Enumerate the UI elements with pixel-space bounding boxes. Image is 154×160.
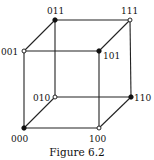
vertex-label-100: 100	[89, 134, 106, 144]
cube-diagram: 000100010110001101011111 Figure 6.2	[0, 0, 154, 160]
vertex-label-010: 010	[33, 93, 50, 103]
vertex-label-111: 111	[121, 6, 138, 16]
vertex-000	[22, 126, 26, 130]
cube-edges	[24, 20, 131, 128]
vertex-111	[128, 18, 132, 22]
vertex-label-001: 001	[1, 47, 18, 57]
vertex-label-011: 011	[47, 6, 64, 16]
edge-100-110	[99, 97, 131, 128]
vertex-label-101: 101	[103, 51, 120, 61]
vertex-label-000: 000	[11, 134, 28, 144]
vertex-101	[97, 49, 101, 53]
vertex-label-110: 110	[134, 93, 151, 103]
vertex-110	[129, 95, 133, 99]
edge-001-011	[24, 20, 55, 51]
vertex-001	[22, 49, 26, 53]
vertex-010	[53, 95, 57, 99]
vertex-011	[53, 18, 57, 22]
figure-caption: Figure 6.2	[49, 146, 104, 158]
edge-101-111	[99, 20, 130, 51]
vertex-100	[97, 126, 101, 130]
edge-110-111	[130, 20, 131, 97]
